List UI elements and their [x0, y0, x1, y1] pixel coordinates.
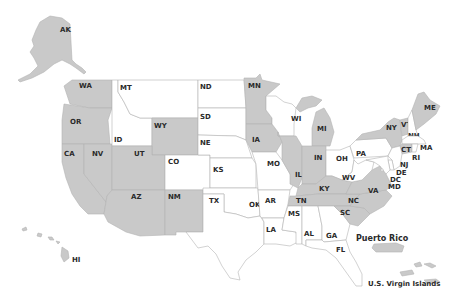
label-OH: OH	[336, 155, 348, 163]
label-HI: HI	[72, 256, 80, 264]
label-MO: MO	[267, 160, 280, 168]
label-OR: OR	[70, 118, 82, 126]
state-PA[interactable]: PA	[350, 138, 392, 158]
label-UT: UT	[134, 150, 145, 158]
label-MI: MI	[317, 125, 327, 133]
state-MI[interactable]: MI	[296, 96, 334, 146]
label-MS: MS	[288, 210, 300, 218]
state-AK[interactable]: AK	[18, 16, 86, 82]
state-HI[interactable]: HI	[22, 227, 80, 264]
label-AL: AL	[304, 230, 314, 238]
label-WY: WY	[154, 122, 168, 130]
label-NE: NE	[200, 139, 211, 147]
label-TN: TN	[296, 197, 307, 205]
state-ME[interactable]: ME	[412, 92, 440, 130]
label-PR: Puerto Rico	[356, 234, 409, 243]
label-NV: NV	[92, 150, 104, 158]
label-AK: AK	[60, 26, 71, 34]
state-IN[interactable]: IN	[302, 146, 326, 184]
label-MN: MN	[248, 82, 261, 90]
label-SC: SC	[340, 209, 350, 217]
label-TX: TX	[209, 197, 220, 205]
label-SD: SD	[200, 113, 211, 121]
label-GA: GA	[326, 232, 338, 240]
state-ND[interactable]: ND	[198, 80, 246, 108]
label-WV: WV	[342, 174, 356, 182]
label-KS: KS	[213, 166, 223, 174]
label-MA: MA	[420, 144, 433, 152]
state-OR[interactable]: OR	[62, 104, 112, 144]
label-MT: MT	[120, 84, 132, 92]
state-MT[interactable]: MT	[118, 80, 198, 118]
state-AZ[interactable]: AZ	[104, 190, 165, 236]
state-FL[interactable]: FL	[306, 240, 362, 286]
label-MD: MD	[388, 183, 401, 191]
label-RI: RI	[412, 154, 420, 162]
label-KY: KY	[319, 185, 330, 193]
label-VA: VA	[368, 187, 379, 195]
label-WA: WA	[79, 82, 92, 90]
territory-VI[interactable]: U.S. Virgin Islands	[368, 262, 441, 288]
label-DC: DC	[390, 176, 401, 184]
label-FL: FL	[336, 246, 346, 254]
state-RI[interactable]: RI	[412, 144, 420, 162]
label-WI: WI	[291, 115, 301, 123]
us-map: AK HI WA OR CA NV ID MT WY UT	[0, 0, 463, 302]
state-KS[interactable]: KS	[210, 158, 256, 188]
label-NM: NM	[168, 193, 181, 201]
label-IL: IL	[295, 171, 303, 179]
label-CT: CT	[401, 146, 411, 154]
state-WY[interactable]: WY	[152, 118, 198, 155]
territory-PR[interactable]: Puerto Rico	[356, 234, 409, 252]
label-ND: ND	[200, 83, 212, 91]
label-CA: CA	[64, 150, 75, 158]
label-ID: ID	[114, 136, 123, 144]
state-NM[interactable]: NM	[165, 190, 203, 235]
label-IN: IN	[314, 154, 323, 162]
label-NJ: NJ	[400, 161, 408, 169]
state-WA[interactable]: WA	[64, 80, 112, 108]
label-CO: CO	[168, 158, 179, 166]
label-AR: AR	[265, 197, 276, 205]
label-ME: ME	[424, 104, 436, 112]
label-NY: NY	[386, 124, 398, 132]
label-IA: IA	[252, 136, 261, 144]
label-LA: LA	[266, 226, 276, 234]
label-NC: NC	[348, 197, 359, 205]
label-VI: U.S. Virgin Islands	[368, 280, 441, 288]
label-AZ: AZ	[131, 193, 142, 201]
state-CO[interactable]: CO	[165, 155, 210, 190]
label-PA: PA	[356, 150, 366, 158]
